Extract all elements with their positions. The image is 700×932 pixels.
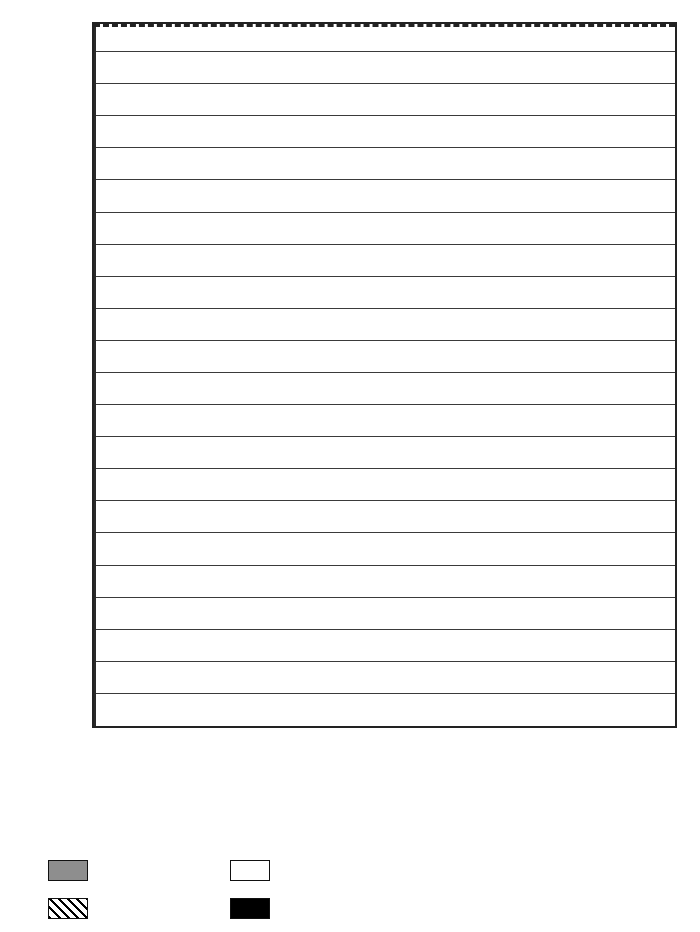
gridline <box>94 404 675 405</box>
gridline <box>94 693 675 694</box>
gridline <box>94 179 675 180</box>
gridline <box>94 212 675 213</box>
reference-dashed-line <box>94 24 675 27</box>
legend-item-primary-air-fan <box>230 860 282 881</box>
gridline <box>94 340 675 341</box>
gridline <box>94 436 675 437</box>
legend-item-crusher <box>48 898 100 919</box>
pulverizer-swatch-icon <box>230 898 270 919</box>
gridline <box>94 661 675 662</box>
gridline <box>94 147 675 148</box>
legend-item-pulverizer <box>230 898 282 919</box>
fd-fan-swatch-icon <box>48 860 88 881</box>
gridline <box>94 500 675 501</box>
gridline <box>94 597 675 598</box>
chart-figure <box>0 0 700 932</box>
gridline <box>94 468 675 469</box>
gridline <box>94 629 675 630</box>
gridline <box>94 276 675 277</box>
crusher-swatch-icon <box>48 898 88 919</box>
gridline <box>94 115 675 116</box>
gridline <box>94 532 675 533</box>
gridline <box>94 308 675 309</box>
gridline <box>94 372 675 373</box>
group-divider-line <box>94 24 96 726</box>
gridline <box>94 83 675 84</box>
gridline <box>94 51 675 52</box>
gridline <box>94 565 675 566</box>
legend-item-fd-fan <box>48 860 100 881</box>
gridline <box>94 244 675 245</box>
primary-air-fan-swatch-icon <box>230 860 270 881</box>
plot-area <box>92 22 677 728</box>
